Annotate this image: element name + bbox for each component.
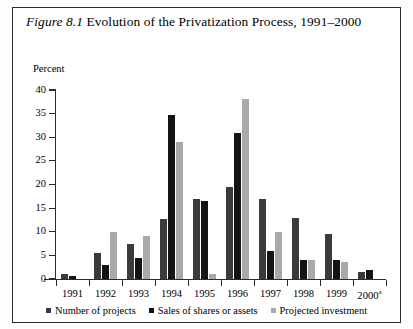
- bar: [341, 262, 348, 279]
- x-axis-tick-label: 1994: [155, 288, 188, 299]
- bar: [209, 274, 216, 279]
- x-axis-tick: [287, 280, 288, 286]
- y-axis-tick-label: 30: [24, 132, 46, 143]
- x-axis-tick-label: 1995: [188, 288, 221, 299]
- x-axis-tick-label: 2000a: [353, 288, 386, 301]
- bar: [333, 260, 340, 279]
- bar: [135, 258, 142, 279]
- x-axis-tick-label: 1996: [221, 288, 254, 299]
- bar: [292, 218, 299, 279]
- bar-group: [61, 90, 85, 279]
- bar: [234, 133, 241, 279]
- chart-legend: Number of projectsSales of shares or ass…: [0, 305, 413, 316]
- plot-area: [56, 90, 386, 279]
- y-axis-tick-label: 25: [24, 155, 46, 166]
- x-axis-tick: [254, 280, 255, 286]
- x-axis-tick-label: 1997: [254, 288, 287, 299]
- bar-group: [259, 90, 283, 279]
- y-axis-tick: [49, 184, 55, 185]
- bar: [300, 260, 307, 279]
- bar-group: [160, 90, 184, 279]
- legend-swatch-icon: [46, 308, 52, 314]
- figure-root: Figure 8.1 Evolution of the Privatizatio…: [0, 0, 413, 329]
- y-axis-tick-label: 0: [24, 274, 46, 285]
- legend-item: Number of projects: [46, 305, 136, 316]
- bar: [102, 265, 109, 279]
- bar: [168, 115, 175, 279]
- bar: [69, 276, 76, 279]
- bar: [201, 201, 208, 279]
- x-axis-tick: [155, 280, 156, 286]
- x-axis-tick-label: 1992: [89, 288, 122, 299]
- bar: [259, 199, 266, 279]
- bar: [358, 272, 365, 279]
- legend-item: Sales of shares or assets: [149, 305, 258, 316]
- y-axis-tick-label: 15: [24, 203, 46, 214]
- x-axis-tick: [386, 280, 387, 286]
- y-axis-tick: [49, 255, 55, 256]
- legend-item-label: Sales of shares or assets: [158, 305, 258, 316]
- legend-item: Projected investment: [271, 305, 367, 316]
- bar: [127, 244, 134, 279]
- y-axis-tick: [49, 89, 55, 90]
- bar: [143, 236, 150, 279]
- bar: [242, 99, 249, 279]
- y-axis-tick-label: 20: [24, 179, 46, 190]
- x-axis-tick-label: 1998: [287, 288, 320, 299]
- y-axis-tick: [49, 231, 55, 232]
- x-axis-tick: [89, 280, 90, 286]
- bar: [267, 251, 274, 279]
- bar-group: [94, 90, 118, 279]
- x-axis-tick: [221, 280, 222, 286]
- bar: [325, 234, 332, 279]
- bar-group: [292, 90, 316, 279]
- bar: [226, 187, 233, 279]
- legend-item-label: Projected investment: [280, 305, 367, 316]
- x-axis-tick: [122, 280, 123, 286]
- bar: [308, 260, 315, 279]
- bar-chart: Percent 0510152025303540 199119921993199…: [0, 0, 413, 329]
- x-axis-tick-label: 1999: [320, 288, 353, 299]
- y-axis-tick: [49, 208, 55, 209]
- x-axis-tick-label: 1993: [122, 288, 155, 299]
- x-axis-tick: [56, 280, 57, 286]
- y-axis-tick: [49, 160, 55, 161]
- bar-group: [193, 90, 217, 279]
- legend-item-label: Number of projects: [55, 305, 136, 316]
- bar-group: [127, 90, 151, 279]
- bar-group: [226, 90, 250, 279]
- bar: [193, 199, 200, 279]
- y-axis-tick-label: 5: [24, 250, 46, 261]
- bar: [366, 270, 373, 279]
- legend-swatch-icon: [271, 308, 277, 314]
- y-axis-tick: [49, 113, 55, 114]
- x-axis-tick: [188, 280, 189, 286]
- bar: [61, 274, 68, 279]
- bar: [160, 219, 167, 279]
- bar: [94, 253, 101, 279]
- x-axis-tick-label: 1991: [56, 288, 89, 299]
- y-axis-tick-label: 40: [24, 85, 46, 96]
- y-axis-tick-label: 35: [24, 108, 46, 119]
- bar: [176, 142, 183, 279]
- x-axis-tick: [320, 280, 321, 286]
- bar-group: [325, 90, 349, 279]
- x-axis-line: [44, 279, 386, 280]
- bar-group: [358, 90, 382, 279]
- y-axis-tick: [49, 137, 55, 138]
- y-axis-title: Percent: [33, 63, 65, 74]
- x-axis-label-footnote-marker: a: [379, 288, 382, 296]
- legend-swatch-icon: [149, 308, 155, 314]
- x-axis-tick: [353, 280, 354, 286]
- y-axis-tick: [49, 278, 55, 279]
- bar: [275, 232, 282, 279]
- y-axis-tick-label: 10: [24, 226, 46, 237]
- bar: [110, 232, 117, 279]
